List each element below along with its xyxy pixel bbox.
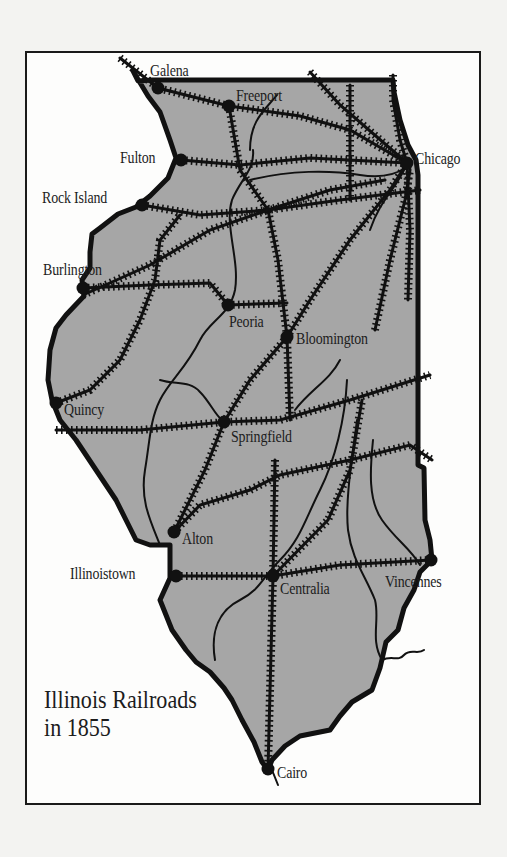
city-marker [425, 554, 438, 567]
city-marker [222, 299, 235, 312]
city-marker [152, 82, 165, 95]
city-marker [267, 570, 280, 583]
city-label-peoria: Peoria [229, 313, 264, 330]
city-marker [136, 199, 149, 212]
city-marker [401, 157, 414, 170]
city-marker [77, 282, 90, 295]
city-marker [168, 526, 181, 539]
railroad-line [228, 303, 287, 305]
city-label-quincy: Quincy [64, 401, 104, 418]
city-label-springfield: Springfield [231, 428, 292, 445]
city-marker [262, 763, 275, 776]
city-label-cairo: Cairo [277, 764, 307, 781]
city-label-illinoistown: Illinoistown [70, 565, 135, 582]
city-label-burlington: Burlington [43, 261, 102, 278]
city-label-fulton: Fulton [120, 149, 155, 166]
city-marker [223, 100, 236, 113]
city-label-chicago: Chicago [415, 150, 460, 167]
map-title-line2: in 1855 [44, 714, 197, 742]
city-label-centralia: Centralia [280, 580, 330, 597]
city-marker [218, 416, 231, 429]
city-label-rock-island: Rock Island [42, 189, 107, 206]
city-marker [175, 154, 188, 167]
city-label-bloomington: Bloomington [296, 330, 368, 347]
map-title: Illinois Railroads in 1855 [44, 686, 197, 742]
city-marker [170, 570, 183, 583]
city-label-alton: Alton [182, 530, 213, 547]
city-marker [281, 331, 294, 344]
map-title-line1: Illinois Railroads [44, 686, 197, 714]
city-label-galena: Galena [150, 62, 188, 79]
river [382, 650, 424, 660]
city-marker [50, 397, 63, 410]
city-label-vincennes: Vincennes [385, 573, 442, 590]
city-label-freeport: Freeport [236, 87, 282, 104]
